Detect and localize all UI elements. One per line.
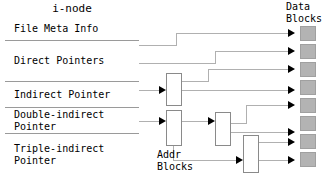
inode-row: File Meta Info <box>5 18 139 41</box>
inode-row: Double-indirect Pointer <box>5 108 139 134</box>
data-block-5 <box>300 98 316 113</box>
inode-row: Triple-indirect Pointer <box>5 134 139 176</box>
arrow-data-4 <box>288 86 295 94</box>
data-block-3 <box>300 62 316 77</box>
arrow-addr-1 <box>159 86 166 94</box>
addr-blocks-title: Addr Blocks <box>157 149 193 173</box>
arrow-addr-2 <box>159 117 166 125</box>
addr-block-1 <box>166 73 182 106</box>
inode-row-label: Direct Pointers <box>5 55 104 67</box>
addr-block-2 <box>166 110 182 146</box>
data-blocks-title: Data Blocks <box>286 1 322 25</box>
addr-block-3 <box>215 112 231 146</box>
data-block-1 <box>300 26 316 41</box>
inode-row-label: File Meta Info <box>5 23 98 35</box>
arrow-data-2 <box>288 47 295 55</box>
wire-addr3-to-data-5 <box>231 105 294 123</box>
inode-row-label: Triple-indirect Pointer <box>5 143 104 167</box>
arrow-data-7 <box>288 138 295 146</box>
wire-addr1-to-data-3 <box>182 69 294 81</box>
inode-row-label: Indirect Pointer <box>5 89 110 101</box>
data-block-2 <box>300 44 316 59</box>
inode-row: Direct Pointers <box>5 41 139 82</box>
data-block-4 <box>300 80 316 95</box>
arrow-addr-3 <box>208 117 215 125</box>
addr-block-4 <box>243 135 259 173</box>
wire-direct-2-to-data-2 <box>139 51 294 63</box>
arrow-data-3 <box>288 65 295 73</box>
data-block-6 <box>300 116 316 131</box>
arrow-data-6 <box>288 128 295 136</box>
inode-diagram: i-node File Meta InfoDirect PointersIndi… <box>0 0 329 179</box>
data-block-8 <box>300 152 316 167</box>
arrow-data-5 <box>288 101 295 109</box>
arrow-data-8 <box>288 156 295 164</box>
inode-title: i-node <box>0 2 144 15</box>
wire-direct-1-to-data-1 <box>139 33 294 45</box>
data-block-7 <box>300 134 316 149</box>
arrow-addr-4 <box>236 156 243 164</box>
inode-row-label: Double-indirect Pointer <box>5 109 104 133</box>
inode-row: Indirect Pointer <box>5 82 139 108</box>
arrow-data-1 <box>288 29 295 37</box>
